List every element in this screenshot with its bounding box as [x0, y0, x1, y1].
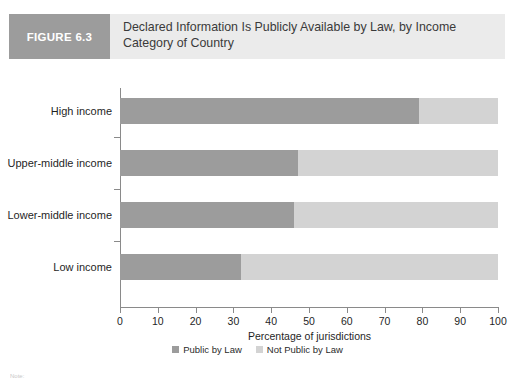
figure-header: FIGURE 6.3 Declared Information Is Publi… [9, 14, 505, 59]
bar-row: Upper-middle income [0, 150, 515, 176]
bar-row: Lower-middle income [0, 202, 515, 228]
bar-segment-public-by-law[interactable] [120, 98, 419, 124]
stacked-bar[interactable] [120, 202, 498, 228]
figure-number-tag: FIGURE 6.3 [9, 14, 110, 59]
legend-swatch-icon [256, 346, 263, 353]
legend-label: Not Public by Law [267, 344, 343, 355]
bar-segment-public-by-law[interactable] [120, 254, 241, 280]
chart-legend: Public by LawNot Public by Law [0, 344, 515, 355]
x-axis-tick-label: 100 [489, 315, 507, 327]
source-note: Note: [10, 372, 440, 380]
y-axis-tick [114, 241, 120, 242]
bar-row: Low income [0, 254, 515, 280]
x-axis-tick [385, 308, 386, 313]
x-axis-tick-label: 40 [265, 315, 277, 327]
x-axis-tick-label: 10 [152, 315, 164, 327]
x-axis-tick [498, 308, 499, 313]
x-axis-tick-label: 0 [117, 315, 123, 327]
x-axis-tick-label: 50 [303, 315, 315, 327]
y-axis-tick [114, 137, 120, 138]
category-label-low-income: Low income [53, 254, 112, 280]
category-label-upper-middle-income: Upper-middle income [7, 150, 112, 176]
x-axis-tick-label: 60 [341, 315, 353, 327]
stacked-bar[interactable] [120, 254, 498, 280]
bar-segment-not-public-by-law[interactable] [241, 254, 498, 280]
x-axis-tick [422, 308, 423, 313]
figure-title: Declared Information Is Publicly Availab… [110, 14, 505, 59]
stacked-bar-chart: High incomeUpper-middle incomeLower-midd… [0, 78, 515, 310]
x-axis-tick-label: 70 [379, 315, 391, 327]
x-axis-tick [233, 308, 234, 313]
stacked-bar[interactable] [120, 98, 498, 124]
x-axis-tick-label: 20 [190, 315, 202, 327]
legend-swatch-icon [172, 346, 179, 353]
bar-segment-not-public-by-law[interactable] [419, 98, 498, 124]
x-axis-tick-label: 30 [228, 315, 240, 327]
x-axis-tick-label: 80 [417, 315, 429, 327]
x-axis-tick-label: 90 [454, 315, 466, 327]
x-axis-tick [158, 308, 159, 313]
bar-segment-not-public-by-law[interactable] [298, 150, 498, 176]
bar-row: High income [0, 98, 515, 124]
bar-segment-not-public-by-law[interactable] [294, 202, 498, 228]
x-axis-title: Percentage of jurisdictions [120, 330, 499, 342]
x-axis-tick [271, 308, 272, 313]
stacked-bar[interactable] [120, 150, 498, 176]
x-axis-tick [309, 308, 310, 313]
x-axis-tick [196, 308, 197, 313]
x-axis-tick [347, 308, 348, 313]
category-label-lower-middle-income: Lower-middle income [7, 202, 112, 228]
x-axis-tick [460, 308, 461, 313]
legend-item[interactable]: Public by Law [172, 344, 242, 355]
bar-segment-public-by-law[interactable] [120, 150, 298, 176]
category-label-high-income: High income [51, 98, 112, 124]
legend-item[interactable]: Not Public by Law [256, 344, 343, 355]
legend-label: Public by Law [183, 344, 242, 355]
x-axis-tick [120, 308, 121, 313]
bar-segment-public-by-law[interactable] [120, 202, 294, 228]
y-axis-tick [114, 189, 120, 190]
